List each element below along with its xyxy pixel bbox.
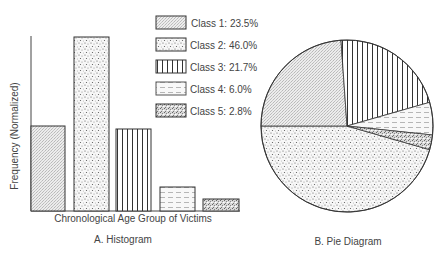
figure: Frequency (Normalized) Chronological Age… <box>0 0 446 259</box>
pie-caption: B. Pie Diagram <box>314 236 381 247</box>
legend-swatch-class-3 <box>156 60 186 73</box>
legend-label-class-2: Class 2: 46.0% <box>190 40 257 51</box>
bar-class-1 <box>31 126 65 211</box>
legend-swatch-class-1 <box>156 16 186 29</box>
legend-label-class-5: Class 5: 2.8% <box>190 106 252 117</box>
x-axis-label: Chronological Age Group of Victims <box>54 213 212 224</box>
legend-swatch-class-2 <box>156 38 186 51</box>
legend-label-class-1: Class 1: 23.5% <box>191 18 258 29</box>
legend-swatch-class-5 <box>156 104 186 117</box>
histogram-caption: A. Histogram <box>94 234 152 245</box>
y-axis-label: Frequency (Normalized) <box>9 82 20 189</box>
pie-chart: B. Pie Diagram <box>261 40 433 247</box>
legend-label-class-4: Class 4: 6.0% <box>190 84 252 95</box>
bar-class-5 <box>203 199 239 211</box>
bar-class-3 <box>116 129 151 211</box>
bar-class-4 <box>160 187 195 211</box>
legend-swatch-class-4 <box>156 82 186 95</box>
pie-slice-class-1 <box>261 40 347 126</box>
legend: Class 1: 23.5% Class 2: 46.0% Class 3: 2… <box>156 16 258 117</box>
bar-class-2 <box>74 37 109 211</box>
legend-label-class-3: Class 3: 21.7% <box>190 62 257 73</box>
